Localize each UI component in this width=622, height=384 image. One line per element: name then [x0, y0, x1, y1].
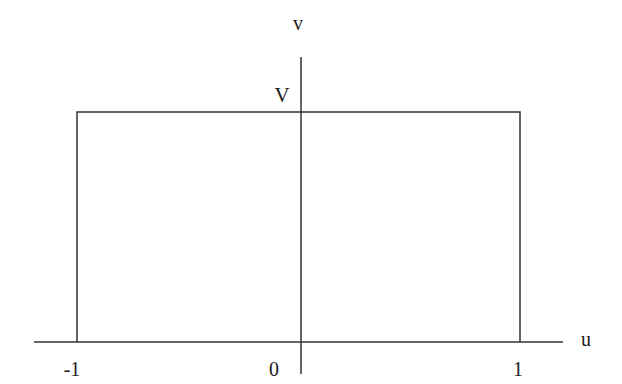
v-axis-label: v: [293, 12, 303, 34]
tick-label-0: 0: [269, 358, 279, 380]
height-label: V: [274, 83, 289, 107]
tick-label-1: 1: [513, 358, 523, 380]
u-axis-label: u: [581, 328, 591, 350]
tick-label-neg1: -1: [64, 358, 81, 380]
pulse-outline: [77, 112, 520, 342]
rectangular-pulse-diagram: v V u -1 0 1: [0, 0, 622, 384]
